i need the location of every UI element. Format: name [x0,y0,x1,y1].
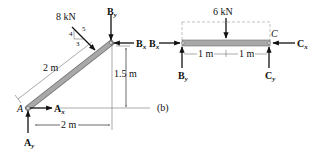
ax-label: Ax [54,103,65,116]
by-right-label: By [178,70,189,83]
by-left-label: By [107,6,118,19]
force-by-right: By [178,47,189,83]
bx-right-label: Bx [149,38,160,51]
force-bx-left: Bx [114,38,147,51]
load-6kn-label: 6 kN [213,6,233,17]
segment-dimensions: 1 m 1 m [184,48,267,59]
figure-label: (b) [157,102,169,114]
cx-label: Cx [297,38,308,51]
point-c-label: C [271,28,278,39]
force-ay: Ay [24,111,35,150]
load-8kn-label: 8 kN [56,11,76,22]
free-body-diagram: 2 m 8 kN 4 5 3 By Bx 1.5 [0,0,310,154]
point-a-label: A [16,103,24,114]
segment-label-1: 1 m [198,48,214,59]
force-by-left: By [107,6,118,40]
left-member-group: 2 m 8 kN 4 5 3 By Bx 1.5 [15,6,150,150]
pin-c [268,42,271,45]
length-label: 2 m [43,62,59,73]
span-dimension: 2 m [35,119,110,130]
slope-hyp: 5 [82,25,86,33]
force-cy: Cy [265,47,276,83]
length-dimension: 2 m [15,42,92,103]
slope-run: 3 [76,40,80,48]
load-8kn: 8 kN 4 5 3 [56,11,95,50]
slope-rise: 4 [69,30,73,38]
pin-a [26,106,29,109]
span-label: 2 m [61,119,77,130]
inclined-member-ab-fill [28,43,111,108]
right-member-group: 6 kN Bx By C Cx Cy 1 m [149,6,308,83]
height-label: 1.5 m [114,68,137,79]
cy-label: Cy [265,70,276,83]
force-cx: Cx [273,38,308,51]
pin-b-right [182,42,185,45]
segment-label-2: 1 m [239,48,255,59]
force-bx-right: Bx [149,38,180,51]
bx-left-label: Bx [136,38,147,51]
ay-label: Ay [24,137,35,150]
horizontal-member-bc [182,40,270,46]
